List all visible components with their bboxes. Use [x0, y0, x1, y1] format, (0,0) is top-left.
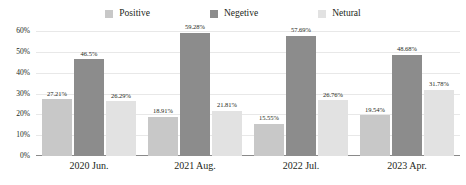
legend-swatch-negetive — [210, 10, 218, 18]
legend-swatch-positive — [105, 10, 113, 18]
y-axis-tick-label: 10% — [16, 131, 30, 139]
bar-netural[interactable] — [424, 90, 454, 156]
grouped-bar-chart: Positive Negetive Netural 0%10%20%30%40%… — [0, 0, 466, 185]
bar-group: 15.55%57.69%26.76% — [248, 31, 354, 156]
bar-value-label: 15.55% — [259, 115, 279, 122]
y-axis-tick-label: 20% — [16, 111, 30, 119]
bar-negetive[interactable] — [74, 59, 104, 156]
bar-value-label: 48.68% — [397, 46, 417, 53]
x-axis-tick-label: 2021 Aug. — [142, 160, 248, 180]
legend-swatch-netural — [318, 10, 326, 18]
legend-item-negetive[interactable]: Negetive — [210, 9, 258, 19]
bar-value-label: 26.29% — [111, 93, 131, 100]
bar-value-label: 31.78% — [429, 81, 449, 88]
y-axis: 0%10%20%30%40%50%60% — [0, 31, 34, 156]
bar-groups: 27.21%46.5%26.29%18.91%59.28%21.81%15.55… — [36, 31, 460, 156]
bar-netural[interactable] — [106, 101, 136, 156]
bar-slot: 15.55% — [254, 31, 284, 156]
bar-positive[interactable] — [42, 99, 72, 156]
bar-value-label: 18.91% — [153, 108, 173, 115]
bar-value-label: 27.21% — [47, 91, 67, 98]
bar-slot: 26.29% — [106, 31, 136, 156]
bar-negetive[interactable] — [180, 33, 210, 157]
legend-item-positive[interactable]: Positive — [105, 9, 150, 19]
bar-value-label: 21.81% — [217, 102, 237, 109]
legend-label-negetive: Negetive — [224, 9, 258, 19]
bar-slot: 48.68% — [392, 31, 422, 156]
x-axis-tick-label: 2022 Jul. — [248, 160, 354, 180]
legend-label-netural: Netural — [332, 9, 361, 19]
bar-slot: 19.54% — [360, 31, 390, 156]
bar-slot: 46.5% — [74, 31, 104, 156]
bar-value-label: 46.5% — [81, 51, 98, 58]
bar-value-label: 57.69% — [291, 27, 311, 34]
bar-slot: 57.69% — [286, 31, 316, 156]
bar-group: 19.54%48.68%31.78% — [354, 31, 460, 156]
y-axis-tick-label: 50% — [16, 48, 30, 56]
legend-item-netural[interactable]: Netural — [318, 9, 361, 19]
bar-slot: 27.21% — [42, 31, 72, 156]
legend-label-positive: Positive — [119, 9, 150, 19]
x-axis-tick-label: 2020 Jun. — [36, 160, 142, 180]
bar-positive[interactable] — [148, 117, 178, 156]
y-axis-tick-label: 40% — [16, 69, 30, 77]
x-axis: 2020 Jun.2021 Aug.2022 Jul.2023 Apr. — [36, 160, 460, 180]
bar-negetive[interactable] — [286, 36, 316, 156]
y-axis-tick-label: 0% — [20, 152, 30, 160]
bar-value-label: 26.76% — [323, 92, 343, 99]
x-axis-tick-label: 2023 Apr. — [354, 160, 460, 180]
bar-netural[interactable] — [318, 100, 348, 156]
bar-positive[interactable] — [360, 115, 390, 156]
y-axis-tick-label: 60% — [16, 27, 30, 35]
y-axis-tick-label: 30% — [16, 90, 30, 98]
bar-slot: 21.81% — [212, 31, 242, 156]
bar-group: 27.21%46.5%26.29% — [36, 31, 142, 156]
bar-slot: 18.91% — [148, 31, 178, 156]
bar-group: 18.91%59.28%21.81% — [142, 31, 248, 156]
bar-negetive[interactable] — [392, 55, 422, 156]
bar-positive[interactable] — [254, 124, 284, 156]
bar-netural[interactable] — [212, 111, 242, 156]
bar-value-label: 59.28% — [185, 24, 205, 31]
plot-area: 27.21%46.5%26.29%18.91%59.28%21.81%15.55… — [36, 31, 460, 156]
chart-legend: Positive Negetive Netural — [0, 6, 466, 22]
bar-slot: 31.78% — [424, 31, 454, 156]
bar-slot: 59.28% — [180, 31, 210, 156]
bar-value-label: 19.54% — [365, 107, 385, 114]
bar-slot: 26.76% — [318, 31, 348, 156]
